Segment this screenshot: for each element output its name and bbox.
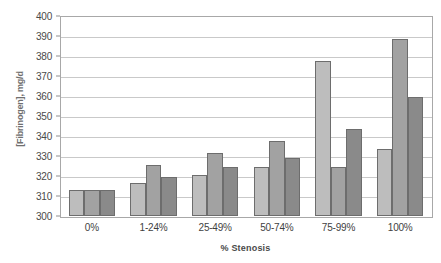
y-axis-tick-label: 360	[0, 91, 56, 102]
bar-group	[246, 17, 308, 216]
x-axis-tick-label: 1-24%	[140, 222, 168, 233]
y-axis-tick-label: 310	[0, 191, 56, 202]
y-axis-tick-label: 390	[0, 31, 56, 42]
y-axis-tick-label: 300	[0, 211, 56, 222]
bar	[223, 167, 239, 216]
bar	[315, 61, 331, 216]
bar	[192, 175, 208, 216]
bar-group	[184, 17, 246, 216]
bar-group	[369, 17, 431, 216]
bar	[207, 153, 223, 216]
bar	[346, 129, 362, 216]
bar	[146, 165, 162, 216]
bar	[130, 183, 146, 216]
bar	[161, 177, 177, 216]
bar	[100, 190, 116, 216]
bar	[254, 167, 270, 216]
bar	[331, 167, 347, 216]
y-axis-tick-label: 380	[0, 51, 56, 62]
bar-group	[123, 17, 185, 216]
y-axis-tick-label: 350	[0, 111, 56, 122]
x-axis-tick-label: 50-74%	[260, 222, 293, 233]
x-axis-tick-label: 0%	[85, 222, 99, 233]
y-axis-tick-label: 320	[0, 171, 56, 182]
bar	[269, 141, 285, 216]
x-axis-tick-labels: 0%1-24%25-49%50-74%75-99%100%	[61, 222, 431, 238]
y-axis-tick-label: 370	[0, 71, 56, 82]
y-axis-tick-labels: 400390380370360350340330320310300	[0, 0, 56, 263]
fibrinogen-stenosis-bar-chart: [Fibrinogen], mg/d 400390380370360350340…	[0, 0, 441, 263]
x-axis-tick-label: 25-49%	[199, 222, 232, 233]
bar	[285, 158, 301, 216]
bar	[392, 39, 408, 216]
x-axis-title: % Stenosis	[60, 243, 431, 253]
y-axis-tick-label: 330	[0, 151, 56, 162]
bar	[408, 97, 424, 216]
bar-groups	[61, 17, 431, 216]
y-axis-tick-label: 340	[0, 131, 56, 142]
bar	[84, 190, 100, 216]
y-axis-tick-label: 400	[0, 11, 56, 22]
x-axis-tick-label: 100%	[388, 222, 413, 233]
chart-title-strip	[0, 0, 441, 6]
bar-group	[61, 17, 123, 216]
bar	[377, 149, 393, 216]
bar	[69, 190, 85, 216]
bar-group	[308, 17, 370, 216]
x-axis-tick-label: 75-99%	[322, 222, 355, 233]
